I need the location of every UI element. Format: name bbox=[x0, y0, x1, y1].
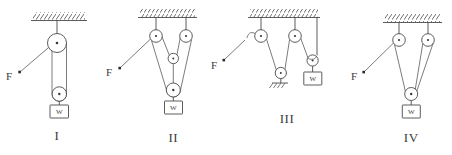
rope-pull-curve-III bbox=[247, 33, 255, 38]
movable-pulley-I bbox=[52, 87, 66, 101]
system-numeral-IV: IV bbox=[404, 130, 419, 145]
fixed-pulley-II-left bbox=[150, 30, 163, 43]
ceiling-hatching-III bbox=[248, 9, 320, 18]
movable-pulley-IV bbox=[405, 88, 418, 101]
rope-II-b bbox=[177, 38, 181, 57]
rope-pull-II bbox=[120, 39, 151, 68]
fixed-pulley-III-mid bbox=[289, 30, 302, 43]
rope-II-left-long bbox=[152, 41, 167, 91]
force-label-II: F bbox=[106, 66, 112, 78]
rope-II-a bbox=[162, 37, 170, 57]
fixed-pulley-IV-left bbox=[393, 34, 406, 47]
ground-anchor-hatching-III bbox=[270, 83, 289, 88]
force-label-III: F bbox=[211, 59, 217, 71]
pulley-diagram-svg: W F I bbox=[0, 0, 452, 155]
ceiling-hatching-IV bbox=[383, 14, 442, 23]
system-numeral-III: III bbox=[280, 111, 295, 126]
weight-label-I: W bbox=[56, 108, 63, 116]
movable-pulley-II-lower bbox=[166, 83, 180, 97]
force-label-IV: F bbox=[351, 70, 357, 82]
pulley-system-IV: W F IV bbox=[351, 14, 442, 145]
fixed-pulley-III-left bbox=[255, 30, 268, 43]
rope-pull-IV bbox=[364, 43, 394, 72]
weight-label-III: W bbox=[309, 75, 316, 83]
force-arrowhead-I bbox=[18, 71, 21, 74]
pulley-systems-figure: W F I bbox=[0, 0, 452, 155]
pulley-system-II: W F II bbox=[106, 9, 197, 145]
rope-II-right-long bbox=[181, 40, 192, 91]
rope-III-b bbox=[285, 40, 290, 73]
force-label-I: F bbox=[6, 70, 12, 82]
rope-III-a bbox=[267, 39, 278, 72]
system-numeral-I: I bbox=[55, 128, 60, 143]
force-arrowhead-IV bbox=[362, 71, 365, 74]
rope-pull-I bbox=[20, 48, 49, 73]
movable-pulley-II-mid bbox=[168, 53, 178, 63]
fixed-pulley-II-right bbox=[180, 30, 193, 43]
weight-label-IV: W bbox=[408, 108, 415, 116]
rope-III-c bbox=[301, 39, 308, 59]
rope-pull-III bbox=[224, 40, 245, 60]
pulley-system-I: W F I bbox=[6, 12, 87, 143]
force-arrowhead-II bbox=[118, 67, 121, 70]
weight-label-II: W bbox=[170, 104, 177, 112]
system-numeral-II: II bbox=[168, 130, 178, 145]
force-arrowhead-III bbox=[223, 59, 226, 62]
movable-pulley-III-lower bbox=[275, 67, 286, 78]
ceiling-hatching-I bbox=[31, 12, 87, 21]
rope-IV-a bbox=[395, 45, 407, 95]
pulley-system-III: W F III bbox=[211, 9, 322, 126]
fixed-pulley-I bbox=[48, 34, 67, 53]
ceiling-hatching-II bbox=[138, 9, 197, 18]
